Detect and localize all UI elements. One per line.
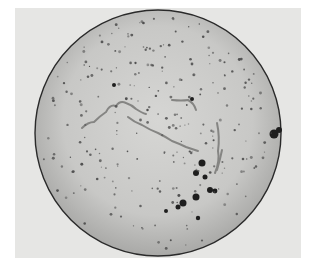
- microscope-field: [0, 0, 310, 271]
